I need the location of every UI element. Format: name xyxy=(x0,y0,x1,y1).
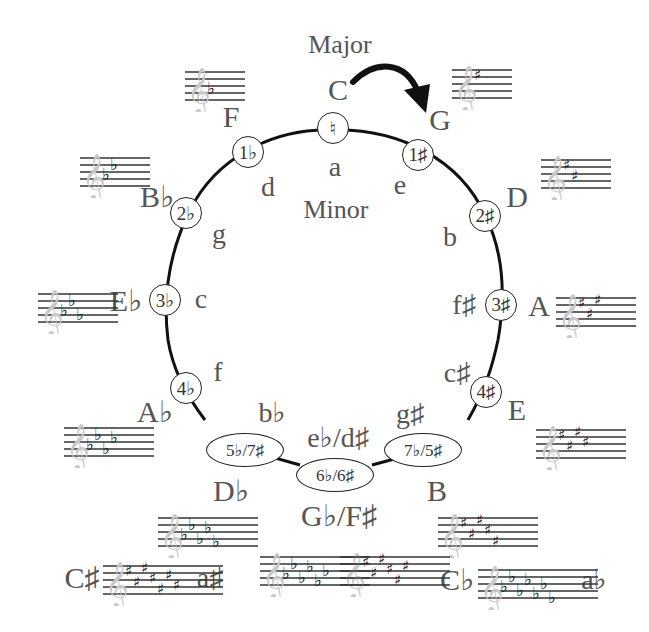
sharp-icon: ♯ xyxy=(474,66,481,84)
node-f-major: 1♭ xyxy=(232,136,264,168)
sharp-icon: ♯ xyxy=(476,511,483,529)
node-gb-fs-major: 6♭/6♯ xyxy=(296,458,374,492)
minor-label-bb: b♭ xyxy=(258,399,285,427)
sharp-icon: ♯ xyxy=(566,437,573,455)
flat-icon: ♭ xyxy=(290,553,298,573)
major-label-a: A xyxy=(528,291,550,321)
sharp-icon: ♯ xyxy=(141,559,148,577)
staff-b: 𝄞♯♯♯♯♯ xyxy=(438,508,538,558)
minor-label-e: e xyxy=(394,171,406,199)
staff-g-flat: 𝄞♭♭♭♭♭♭ xyxy=(260,547,370,597)
major-label-cs: C♯ xyxy=(64,563,99,593)
minor-label-a: a xyxy=(329,153,341,181)
sharp-icon: ♯ xyxy=(558,426,565,444)
flat-icon: ♭ xyxy=(322,560,330,580)
staff-c-sharp: 𝄞♯♯♯♯♯♯♯ xyxy=(103,556,223,606)
flat-icon: ♭ xyxy=(212,531,220,551)
flat-icon: ♭ xyxy=(508,566,516,586)
flat-icon: ♭ xyxy=(102,164,110,184)
major-label-d: D xyxy=(506,182,528,212)
staff-a-flat: 𝄞♭♭♭♭ xyxy=(64,418,154,468)
sharp-icon: ♯ xyxy=(157,580,164,598)
staff-e-flat: 𝄞♭♭♭ xyxy=(38,284,118,334)
sharp-icon: ♯ xyxy=(165,566,172,584)
staff-a: 𝄞♯♯♯ xyxy=(556,288,636,338)
sharp-icon: ♯ xyxy=(370,564,377,582)
staff-g: 𝄞♯ xyxy=(452,60,512,110)
staff-d: 𝄞♯♯ xyxy=(541,150,611,200)
sharp-icon: ♯ xyxy=(578,294,585,312)
node-db-major: 5♭/7♯ xyxy=(206,433,284,467)
flat-icon: ♭ xyxy=(306,556,314,576)
sharp-icon: ♯ xyxy=(574,423,581,441)
sharp-icon: ♯ xyxy=(378,550,385,568)
sharp-icon: ♯ xyxy=(571,167,578,185)
sharp-icon: ♯ xyxy=(402,557,409,575)
circle-of-fifths-diagram: Major Minor ♮ 1♯ 2♯ 3♯ 4♯ 7♭/5♯ 6♭/6♯ 5♭… xyxy=(0,0,649,632)
sharp-icon: ♯ xyxy=(133,573,140,591)
node-a-major: 3♯ xyxy=(485,289,517,321)
sharp-icon: ♯ xyxy=(586,305,593,323)
major-label-g: G xyxy=(429,105,451,135)
arrow-c-to-g xyxy=(353,67,418,92)
major-label-b: B xyxy=(427,476,447,506)
node-c-major: ♮ xyxy=(317,112,349,144)
flat-icon: ♭ xyxy=(188,514,196,534)
sharp-icon: ♯ xyxy=(394,571,401,589)
flat-icon: ♭ xyxy=(314,570,322,590)
staff-c-flat: 𝄞♭♭♭♭♭♭♭ xyxy=(478,560,598,610)
flat-icon: ♭ xyxy=(60,300,68,320)
flat-icon: ♭ xyxy=(110,154,118,174)
flat-icon: ♭ xyxy=(500,576,508,596)
minor-label-d: d xyxy=(261,173,275,201)
minor-label-cs: c♯ xyxy=(444,359,470,387)
staff-f: 𝄞♭ xyxy=(185,62,245,112)
flat-icon: ♭ xyxy=(110,427,118,447)
sharp-icon: ♯ xyxy=(460,514,467,532)
minor-label-f: f xyxy=(213,358,222,386)
flat-icon: ♭ xyxy=(102,438,110,458)
flat-icon: ♭ xyxy=(540,573,548,593)
node-d-major: 2♯ xyxy=(469,200,501,232)
sharp-icon: ♯ xyxy=(149,569,156,587)
flat-icon: ♭ xyxy=(196,528,204,548)
flat-icon: ♭ xyxy=(68,290,76,310)
minor-label-g: g xyxy=(212,220,226,248)
major-label-db: D♭ xyxy=(213,476,249,506)
major-heading: Major xyxy=(308,32,372,58)
flat-icon: ♭ xyxy=(204,517,212,537)
sharp-icon: ♯ xyxy=(594,291,601,309)
flat-icon: ♭ xyxy=(282,563,290,583)
node-eb-major: 3♭ xyxy=(149,284,181,316)
minor-label-fs: f♯ xyxy=(452,291,475,319)
flat-icon: ♭ xyxy=(207,78,215,98)
flat-icon: ♭ xyxy=(298,567,306,587)
sharp-icon: ♯ xyxy=(173,576,180,594)
node-ab-major: 4♭ xyxy=(170,372,202,404)
sharp-icon: ♯ xyxy=(582,433,589,451)
sharp-icon: ♯ xyxy=(484,521,491,539)
staff-e: 𝄞♯♯♯♯ xyxy=(536,420,626,470)
node-g-major: 1♯ xyxy=(402,139,434,171)
flat-icon: ♭ xyxy=(76,304,84,324)
sharp-icon: ♯ xyxy=(563,156,570,174)
staff-b-flat: 𝄞♭♭ xyxy=(80,148,150,198)
sharp-icon: ♯ xyxy=(125,562,132,580)
node-bb-major: 2♭ xyxy=(170,197,202,229)
minor-label-c: c xyxy=(195,285,207,313)
sharp-icon: ♯ xyxy=(492,532,499,550)
major-label-gb-fs: G♭/F♯ xyxy=(301,501,377,531)
flat-icon: ♭ xyxy=(180,524,188,544)
sharp-icon: ♯ xyxy=(386,560,393,578)
flat-icon: ♭ xyxy=(532,583,540,603)
flat-icon: ♭ xyxy=(86,434,94,454)
major-label-e: E xyxy=(508,395,526,425)
arrowhead-icon xyxy=(404,84,430,113)
minor-heading: Minor xyxy=(304,197,369,223)
flat-icon: ♭ xyxy=(524,569,532,589)
minor-label-eb-ds: e♭/d♯ xyxy=(307,424,368,452)
node-e-major: 4♯ xyxy=(470,376,502,408)
sharp-icon: ♯ xyxy=(468,525,475,543)
staff-d-flat: 𝄞♭♭♭♭♭ xyxy=(158,508,258,558)
major-label-c: C xyxy=(328,75,348,105)
